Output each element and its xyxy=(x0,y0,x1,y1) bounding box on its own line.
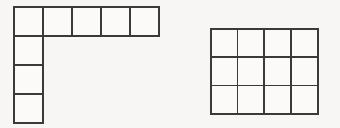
drawing-canvas xyxy=(0,0,340,128)
figure-l-shape xyxy=(13,6,160,124)
rectangle-grid-cell-11 xyxy=(291,86,318,114)
rectangle-grid-cell-6 xyxy=(264,57,291,85)
l-shape-cell-6 xyxy=(14,65,43,94)
l-shape-cell-4 xyxy=(130,7,159,36)
rectangle-grid-cell-3 xyxy=(291,29,318,57)
l-shape-cell-7 xyxy=(14,94,43,123)
rectangle-grid-cell-8 xyxy=(211,86,238,114)
rectangle-grid-cell-7 xyxy=(291,57,318,85)
l-shape-svg xyxy=(13,6,160,124)
rectangle-grid-cell-9 xyxy=(238,86,265,114)
l-shape-cell-2 xyxy=(72,7,101,36)
rectangle-grid-cell-4 xyxy=(211,57,238,85)
figure-rectangle-grid xyxy=(210,28,319,115)
rectangle-grid-cell-0 xyxy=(211,29,238,57)
rectangle-grid-cell-10 xyxy=(264,86,291,114)
l-shape-cell-1 xyxy=(43,7,72,36)
rectangle-grid-cell-2 xyxy=(264,29,291,57)
rectangle-grid-cell-1 xyxy=(238,29,265,57)
l-shape-cell-0 xyxy=(14,7,43,36)
l-shape-cell-5 xyxy=(14,36,43,65)
l-shape-cell-3 xyxy=(101,7,130,36)
rectangle-grid-svg xyxy=(210,28,319,115)
rectangle-grid-cell-5 xyxy=(238,57,265,85)
